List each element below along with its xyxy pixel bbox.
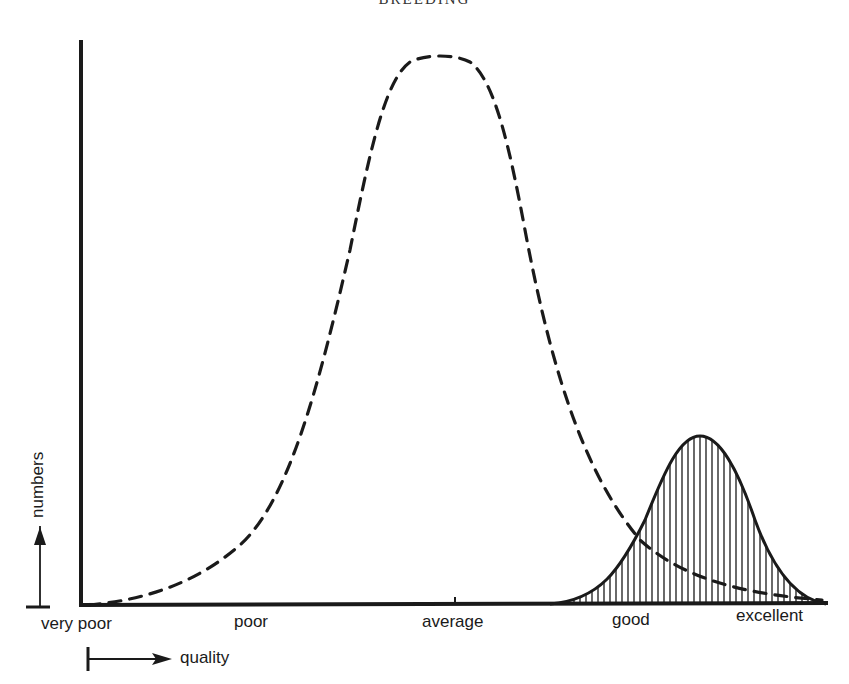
x-category-excellent: excellent xyxy=(736,606,803,626)
numbers-arrow-icon xyxy=(26,526,50,607)
x-category-average: average xyxy=(422,612,483,632)
distribution-chart xyxy=(0,0,849,684)
x-category-good: good xyxy=(612,610,650,630)
x-axis-label: quality xyxy=(180,648,229,668)
x-category-poor: poor xyxy=(234,612,268,632)
quality-arrow-icon xyxy=(88,647,172,671)
y-axis-label: numbers xyxy=(28,452,48,518)
x-axis xyxy=(79,603,828,605)
hatch-fill xyxy=(556,420,820,610)
x-category-very-poor: very poor xyxy=(41,614,112,634)
